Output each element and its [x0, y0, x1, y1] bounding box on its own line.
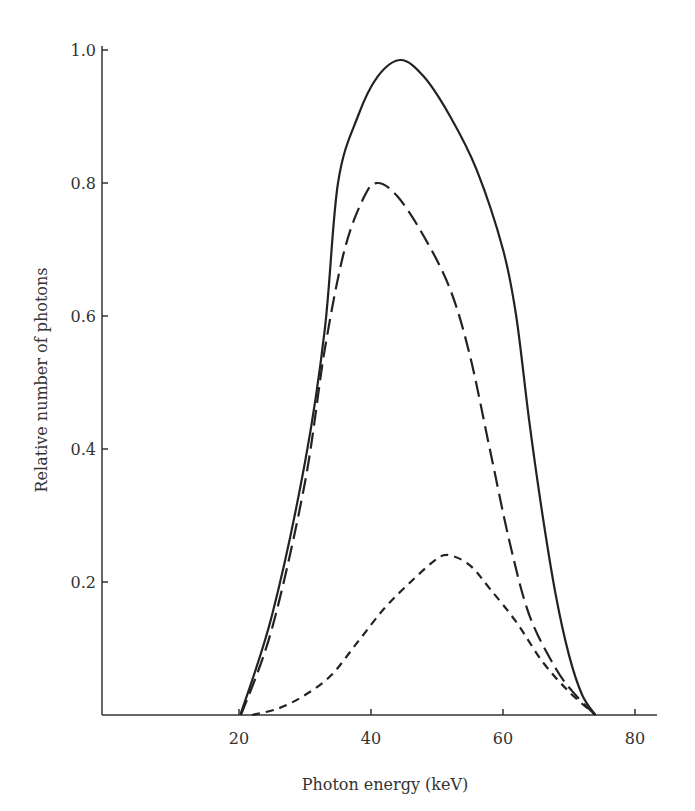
y-tick-label: 0.8	[71, 174, 96, 193]
curve-solid	[240, 60, 595, 715]
x-tick-label: 60	[493, 729, 513, 748]
photon-spectrum-chart: 0.20.40.60.81.0 20406080 Photon energy (…	[0, 0, 695, 811]
x-tick-label: 20	[229, 729, 249, 748]
y-tick-label: 0.2	[71, 573, 96, 592]
y-tick-label: 0.4	[71, 440, 96, 459]
x-tick-label: 80	[625, 729, 645, 748]
curve-short-dashed	[252, 555, 595, 715]
axes	[102, 46, 657, 715]
curve-long-dashed	[241, 183, 595, 715]
x-axis-label: Photon energy (keV)	[302, 775, 469, 794]
y-tick-label: 0.6	[71, 307, 96, 326]
y-tick-label: 1.0	[71, 41, 96, 60]
x-tick-label: 40	[361, 729, 381, 748]
curves	[240, 60, 595, 715]
y-axis-label: Relative number of photons	[32, 268, 51, 493]
